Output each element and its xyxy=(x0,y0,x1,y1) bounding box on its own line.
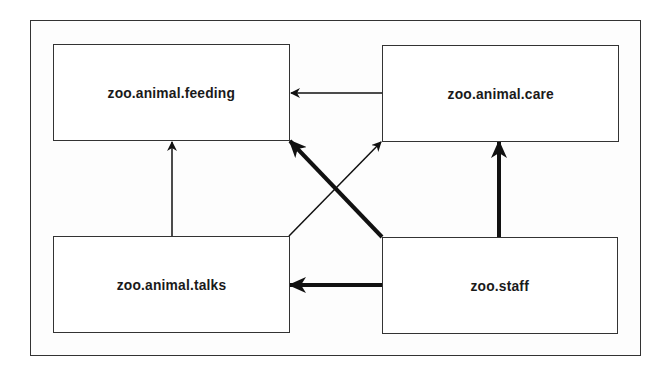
node-label: zoo.animal.care xyxy=(447,85,553,102)
node-zoo-animal-feeding: zoo.animal.feeding xyxy=(53,44,290,141)
node-zoo-animal-care: zoo.animal.care xyxy=(382,45,619,142)
node-zoo-animal-talks: zoo.animal.talks xyxy=(53,236,290,333)
node-label: zoo.staff xyxy=(471,277,529,294)
node-label: zoo.animal.feeding xyxy=(108,84,236,101)
node-label: zoo.animal.talks xyxy=(117,276,227,293)
node-zoo-staff: zoo.staff xyxy=(382,237,618,334)
